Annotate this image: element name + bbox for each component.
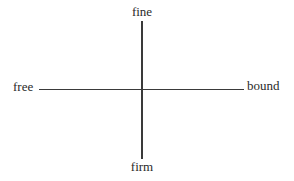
axis-label-bottom: firm (127, 160, 157, 174)
vertical-axis-line (141, 21, 143, 159)
axis-label-left: free (13, 80, 33, 94)
axis-label-right: bound (247, 79, 280, 93)
horizontal-axis-line (39, 89, 244, 91)
axis-label-top: fine (128, 5, 156, 19)
